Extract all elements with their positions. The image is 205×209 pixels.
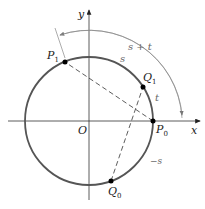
arc-label-s: s: [120, 53, 125, 64]
arc-s-plus-t-start: [60, 30, 182, 115]
arc-s-plus-t: [60, 30, 182, 118]
point-q0: [109, 179, 114, 184]
origin-label: O: [78, 124, 87, 137]
arc-label-neg-s: −s: [150, 156, 163, 166]
x-axis-label: x: [191, 124, 198, 137]
arc-label-s-plus-t: s + t: [128, 41, 153, 52]
label-q1: Q1: [143, 71, 157, 86]
y-axis-label: y: [77, 8, 85, 21]
tick-line-p1: [55, 28, 65, 58]
unit-circle-diagram: y x O P1 Q1 P0 Q0 s t s + t −s: [0, 0, 205, 209]
point-p1: [63, 60, 68, 65]
label-q0: Q0: [108, 185, 122, 200]
chord-q0-q1: [111, 87, 143, 181]
label-p0: P0: [155, 123, 168, 138]
point-q1: [141, 85, 146, 90]
label-p1: P1: [46, 49, 59, 64]
point-p0: [151, 119, 156, 124]
arc-label-t: t: [155, 92, 160, 103]
chord-p0-p1: [65, 62, 153, 121]
